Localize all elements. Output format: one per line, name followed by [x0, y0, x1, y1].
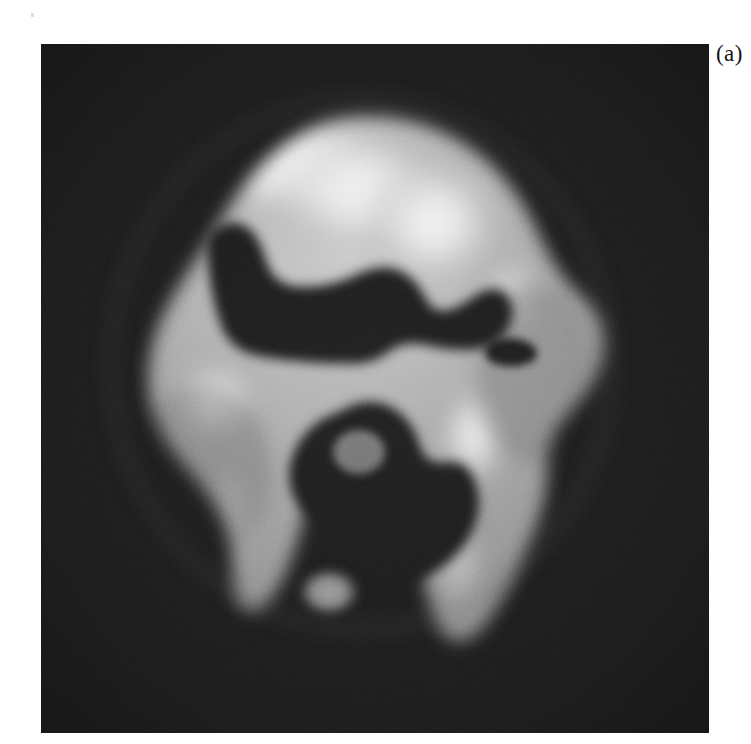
scan-image-panel[interactable] [41, 44, 709, 733]
scan-artifact-speck [31, 13, 34, 17]
panel-label-a: (a) [716, 42, 743, 65]
scan-image [41, 44, 709, 733]
scan-grain-overlay-2 [41, 44, 709, 733]
figure-root: (a) [0, 0, 751, 744]
